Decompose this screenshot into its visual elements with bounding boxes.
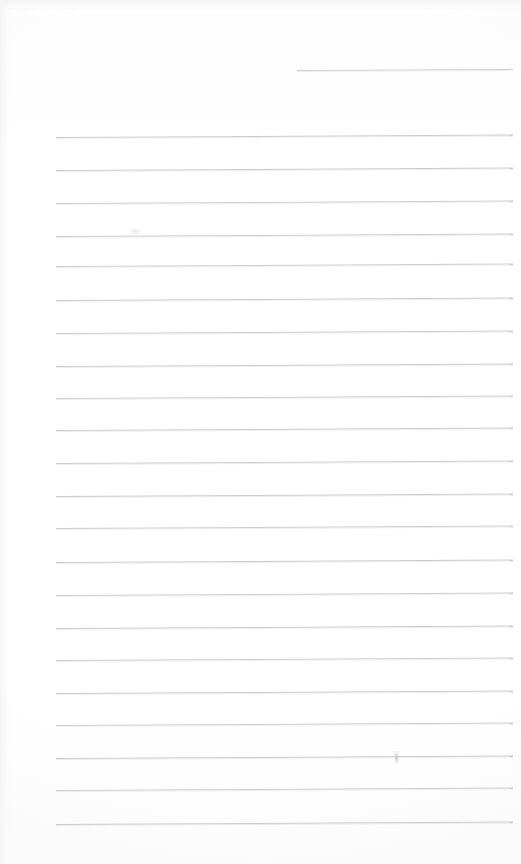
ruled-line — [56, 330, 513, 334]
ruled-line-partial — [297, 69, 513, 71]
ruled-line — [56, 821, 513, 825]
ruled-line — [56, 625, 513, 629]
ruled-line — [56, 690, 513, 694]
ruled-line — [56, 233, 513, 237]
ruled-line — [56, 263, 513, 267]
ruled-line — [56, 395, 513, 399]
scan-edge-left — [0, 0, 9, 864]
ruled-line — [56, 657, 513, 661]
paper-texture — [0, 0, 521, 864]
ruled-line — [56, 722, 513, 726]
ruled-line — [56, 525, 513, 529]
ruled-line — [56, 200, 513, 204]
ruled-line — [56, 297, 513, 301]
scanned-page — [0, 0, 521, 864]
ruled-line — [56, 363, 513, 367]
ruled-line — [56, 755, 513, 759]
ruled-line — [56, 787, 513, 791]
ruled-line — [56, 134, 513, 138]
scan-edge-top — [0, 0, 521, 10]
ruled-line — [56, 167, 513, 171]
ruled-line — [56, 493, 513, 497]
ruled-line — [56, 460, 513, 464]
ruled-line — [56, 592, 513, 596]
ruled-line — [56, 559, 513, 563]
ruled-line — [56, 427, 513, 431]
